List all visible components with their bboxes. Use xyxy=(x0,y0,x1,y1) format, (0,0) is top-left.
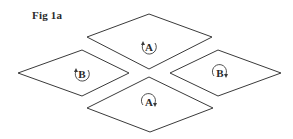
figure-canvas: Fig 1a ABBA xyxy=(0,0,293,139)
diamond-bottom: A xyxy=(87,77,213,132)
diamond-right: B xyxy=(170,50,281,96)
diamond-label: B xyxy=(78,68,86,80)
diamond-label: A xyxy=(145,96,153,108)
diamond-left: B xyxy=(18,50,129,96)
diamond-label: B xyxy=(216,67,224,79)
diamond-outline xyxy=(18,50,129,96)
diamond-top: A xyxy=(87,14,212,69)
arrowhead-icon xyxy=(153,103,157,107)
diamond-label: A xyxy=(145,41,153,53)
arrowhead-icon xyxy=(224,74,228,78)
diamond-outline xyxy=(170,50,281,96)
figure-label: Fig 1a xyxy=(32,9,62,21)
